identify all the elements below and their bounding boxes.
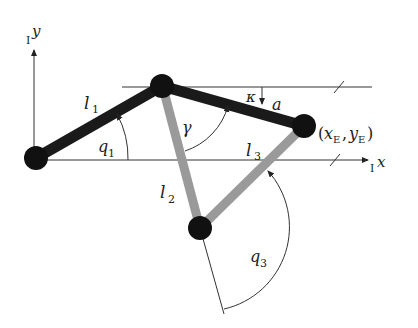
link-l2 <box>163 88 200 228</box>
label-l2-sub: 2 <box>168 193 175 206</box>
q3-reference-line <box>200 228 224 314</box>
x-axis-label: x <box>377 153 386 171</box>
top-joint <box>150 74 174 98</box>
svg-text:,: , <box>342 124 347 143</box>
label-l3-sub: 3 <box>254 150 261 163</box>
label-q3-sub: 3 <box>260 257 267 270</box>
label-l2: l <box>160 182 165 202</box>
base-joint <box>24 146 48 170</box>
label-q3: q <box>250 247 260 266</box>
label-q1: q <box>98 137 108 156</box>
end-effector-joint <box>292 114 316 138</box>
y-axis-prefix: I <box>26 34 30 47</box>
manipulator-diagram: I y I x l 1 l 2 l 3 q 1 q 3 γ κ a ( x E … <box>0 0 418 328</box>
svg-text:E: E <box>333 134 340 145</box>
label-a: a <box>272 95 282 114</box>
q1-arc <box>117 114 128 160</box>
y-axis-label: y <box>31 22 41 40</box>
label-l3: l <box>246 140 251 160</box>
svg-text:E: E <box>358 134 365 145</box>
label-gamma: γ <box>182 118 192 137</box>
x-axis-prefix: I <box>370 162 374 175</box>
label-q1-sub: 1 <box>108 147 115 160</box>
label-kappa: κ <box>245 88 256 106</box>
svg-text:x: x <box>324 124 333 143</box>
label-l1-sub: 1 <box>92 103 99 116</box>
svg-text:): ) <box>367 124 373 143</box>
end-effector-label: ( x E , y E ) <box>318 124 373 145</box>
bottom-joint <box>188 216 212 240</box>
label-l1: l <box>84 93 89 113</box>
